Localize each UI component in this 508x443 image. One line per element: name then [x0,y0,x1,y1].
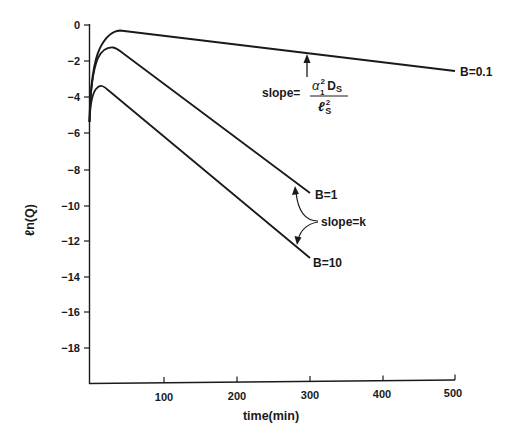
chart-container: 0 −2 −4 −6 −8 −10 −12 −14 −16 −18 100 20… [0,0,508,443]
y-axis-tick-labels: 0 −2 −4 −6 −8 −10 −12 −14 −16 −18 [61,19,81,354]
slope-numerator: α21DS [312,77,342,97]
slope-denominator: ℓ2S [318,98,331,116]
series-line-b01 [90,31,456,123]
x-tick-label: 200 [228,390,246,402]
y-tick-label: −12 [61,235,80,247]
series-label-b1: B=1 [315,188,338,202]
y-tick-label: −8 [67,164,80,176]
y-tick-label: −18 [61,342,80,354]
x-tick-label: 400 [373,388,391,400]
x-axis-ticks [164,375,455,383]
x-axis-title: time(min) [243,409,299,423]
series-label-b10: B=10 [313,256,342,270]
slope-k-label: slope=k [321,215,366,229]
arrowhead-icon [292,186,299,195]
slope-annotation-diffusion: slope= α21DS ℓ2S [262,54,348,116]
svg-text:slope=: slope= [262,86,300,100]
y-axis-title: ℓn(Q) [23,204,37,236]
x-tick-label: 100 [155,391,173,403]
arrowhead-icon [304,54,311,63]
series-label-b01: B=0.1 [460,65,493,79]
x-axis-tick-labels: 100 200 300 400 500 [155,387,462,403]
curved-arrow-icon [298,222,318,240]
line-chart: 0 −2 −4 −6 −8 −10 −12 −14 −16 −18 100 20… [0,0,508,443]
y-tick-label: −14 [61,271,81,283]
y-tick-label: −16 [61,306,80,318]
series-line-b1 [90,47,311,193]
y-tick-label: −10 [61,200,80,212]
x-axis-line [89,380,455,384]
x-tick-label: 500 [444,387,462,399]
x-tick-label: 300 [301,389,319,401]
arrowhead-icon [295,236,302,245]
y-tick-label: −4 [67,91,80,103]
y-tick-label: −2 [67,55,80,67]
y-tick-label: 0 [74,19,80,31]
y-tick-label: −6 [67,127,80,139]
